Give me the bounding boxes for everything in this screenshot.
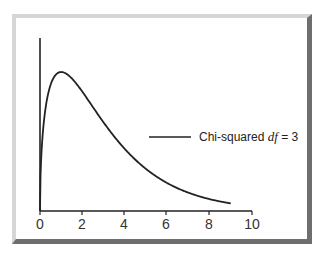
x-tick-label-8: 8 <box>205 216 213 232</box>
x-tick-label-2: 2 <box>78 216 86 232</box>
legend-label: Chi-squared df = 3 <box>199 129 299 144</box>
legend: Chi-squared df = 3 <box>149 129 299 144</box>
x-axis-tick-labels: 0 2 4 6 8 10 <box>36 216 260 232</box>
x-tick-label-4: 4 <box>120 216 128 232</box>
x-tick-label-6: 6 <box>162 216 170 232</box>
x-tick-label-10: 10 <box>244 216 260 232</box>
x-tick-label-0: 0 <box>36 216 44 232</box>
chi-squared-chart: 0 2 4 6 8 10 Chi-squared df = 3 <box>0 0 328 262</box>
